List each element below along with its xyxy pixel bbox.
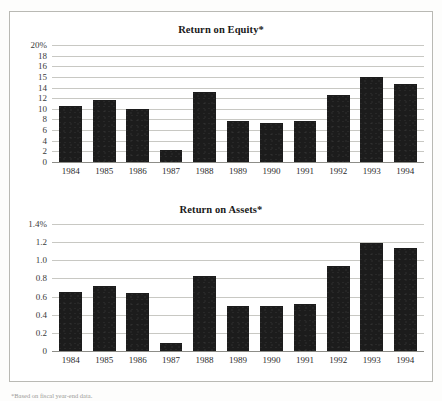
chart-panel-return-on-equity: Return on Equity* 20%18161514121086420 1… — [10, 12, 432, 198]
y-axis-tick-roa-0: 0 — [43, 346, 48, 356]
y-axis-tick-roa-0-4: 0.4 — [36, 310, 47, 320]
chart-title-return-on-assets: Return on Assets* — [10, 204, 432, 215]
x-axis-label-roa-1991: 1991 — [288, 351, 321, 369]
plot-area-return-on-assets: 1.4%1.21.00.80.60.40.20 1984198519861987… — [52, 224, 424, 351]
y-axis-tick-roa-1-0: 1.0 — [36, 255, 47, 265]
figure-page: Return on Equity* 20%18161514121086420 1… — [0, 0, 442, 401]
x-axis-label-roa-1990: 1990 — [255, 351, 288, 369]
x-axis-label-roe-1991: 1991 — [288, 162, 321, 180]
bar-series-return-on-assets — [52, 224, 424, 351]
y-axis-tick-roe-20pct: 20% — [31, 40, 48, 50]
bar-slot-roa-1988 — [188, 224, 221, 351]
y-axis-tick-roe-6: 6 — [43, 125, 48, 135]
bar-slot-roe-1987 — [154, 45, 187, 162]
x-axis-label-roe-1994: 1994 — [389, 162, 422, 180]
bar-slot-roa-1984 — [54, 224, 87, 351]
y-axis-tick-roe-4: 4 — [43, 136, 48, 146]
x-axis-label-roe-1988: 1988 — [188, 162, 221, 180]
bar-roa-1984 — [59, 292, 82, 351]
y-axis-tick-roe-15: 15 — [38, 72, 47, 82]
x-axis-label-roe-1990: 1990 — [255, 162, 288, 180]
bar-slot-roa-1989 — [221, 224, 254, 351]
bar-roe-1989 — [227, 121, 250, 162]
x-axis-label-roa-1984: 1984 — [54, 351, 87, 369]
x-axis-label-roe-1984: 1984 — [54, 162, 87, 180]
bar-roa-1992 — [327, 266, 350, 351]
chart-title-return-on-equity: Return on Equity* — [10, 24, 432, 35]
bar-slot-roe-1988 — [188, 45, 221, 162]
y-axis-tick-roe-8: 8 — [43, 114, 48, 124]
bar-slot-roa-1990 — [255, 224, 288, 351]
figure-frame: Return on Equity* 20%18161514121086420 1… — [9, 11, 433, 382]
bar-slot-roe-1989 — [221, 45, 254, 162]
bar-slot-roe-1985 — [87, 45, 120, 162]
bar-roe-1986 — [126, 109, 149, 162]
bar-slot-roa-1986 — [121, 224, 154, 351]
bar-roe-1992 — [327, 95, 350, 162]
x-axis-label-roe-1992: 1992 — [322, 162, 355, 180]
bar-slot-roe-1984 — [54, 45, 87, 162]
x-axis-label-roe-1986: 1986 — [121, 162, 154, 180]
bar-slot-roa-1992 — [322, 224, 355, 351]
bar-roe-1994 — [394, 84, 417, 162]
bar-slot-roa-1994 — [389, 224, 422, 351]
x-axis-labels-return-on-assets: 1984198519861987198819891990199119921993… — [52, 351, 424, 369]
y-axis-tick-roe-2: 2 — [43, 146, 48, 156]
y-axis-tick-roa-1-2: 1.2 — [36, 237, 47, 247]
bar-slot-roe-1994 — [389, 45, 422, 162]
bar-slot-roe-1991 — [288, 45, 321, 162]
x-axis-label-roa-1993: 1993 — [355, 351, 388, 369]
y-axis-tick-roe-10: 10 — [38, 104, 47, 114]
bar-roe-1993 — [360, 77, 383, 162]
bar-roa-1991 — [294, 304, 317, 351]
x-axis-label-roe-1993: 1993 — [355, 162, 388, 180]
y-axis-tick-roe-16: 16 — [38, 61, 47, 71]
y-axis-tick-roe-14: 14 — [38, 83, 47, 93]
x-axis-label-roa-1994: 1994 — [389, 351, 422, 369]
x-axis-label-roa-1992: 1992 — [322, 351, 355, 369]
figure-footnote: *Based on fiscal year-end data. — [11, 390, 291, 401]
bar-roa-1987 — [160, 343, 183, 351]
bar-slot-roa-1987 — [154, 224, 187, 351]
bar-slot-roe-1990 — [255, 45, 288, 162]
bar-slot-roa-1993 — [355, 224, 388, 351]
bar-roe-1988 — [193, 92, 216, 162]
bar-series-return-on-equity — [52, 45, 424, 162]
y-axis-tick-roa-1-4pct: 1.4% — [28, 219, 47, 229]
bar-slot-roe-1992 — [322, 45, 355, 162]
bar-roa-1986 — [126, 293, 149, 351]
chart-panel-return-on-assets: Return on Assets* 1.4%1.21.00.80.60.40.2… — [10, 198, 432, 381]
bar-roa-1994 — [394, 248, 417, 351]
x-axis-label-roa-1986: 1986 — [121, 351, 154, 369]
y-axis-tick-roa-0-8: 0.8 — [36, 273, 47, 283]
x-axis-label-roa-1987: 1987 — [154, 351, 187, 369]
y-axis-tick-roe-18: 18 — [38, 51, 47, 61]
bar-slot-roa-1991 — [288, 224, 321, 351]
y-axis-tick-roe-0: 0 — [43, 157, 48, 167]
bar-roe-1985 — [93, 100, 116, 162]
bar-roe-1984 — [59, 106, 82, 162]
x-axis-label-roe-1989: 1989 — [221, 162, 254, 180]
x-axis-label-roe-1985: 1985 — [87, 162, 120, 180]
bar-slot-roe-1986 — [121, 45, 154, 162]
bar-roe-1987 — [160, 150, 183, 162]
y-axis-tick-roa-0-2: 0.2 — [36, 328, 47, 338]
bar-roa-1985 — [93, 286, 116, 351]
x-axis-label-roa-1989: 1989 — [221, 351, 254, 369]
y-axis-tick-roa-0-6: 0.6 — [36, 292, 47, 302]
bar-roe-1990 — [260, 123, 283, 162]
bar-roe-1991 — [294, 121, 317, 162]
bar-roa-1993 — [360, 243, 383, 351]
y-axis-tick-roe-12: 12 — [38, 93, 47, 103]
x-axis-label-roe-1987: 1987 — [154, 162, 187, 180]
x-axis-labels-return-on-equity: 1984198519861987198819891990199119921993… — [52, 162, 424, 180]
bar-slot-roa-1985 — [87, 224, 120, 351]
bar-roa-1990 — [260, 306, 283, 351]
bar-roa-1989 — [227, 306, 250, 351]
x-axis-label-roa-1988: 1988 — [188, 351, 221, 369]
bar-roa-1988 — [193, 276, 216, 351]
x-axis-label-roa-1985: 1985 — [87, 351, 120, 369]
bar-slot-roe-1993 — [355, 45, 388, 162]
plot-area-return-on-equity: 20%18161514121086420 1984198519861987198… — [52, 45, 424, 162]
